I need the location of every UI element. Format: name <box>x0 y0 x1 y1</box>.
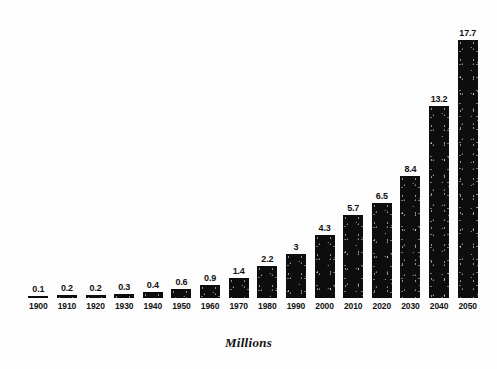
bar <box>229 278 249 298</box>
bar-value-label: 6.5 <box>376 191 388 201</box>
x-axis: 1900191019201930194019501960197019801990… <box>0 300 497 316</box>
bar-value-label: 2.2 <box>261 254 273 264</box>
bar <box>458 40 478 298</box>
x-axis-tick-label: 2040 <box>425 300 454 312</box>
x-axis-tick-label: 1940 <box>139 300 168 312</box>
bar-group: 0.3 <box>114 0 134 298</box>
bar <box>57 295 77 298</box>
x-axis-tick-label: 1980 <box>253 300 282 312</box>
x-axis-tick-label: 1910 <box>53 300 82 312</box>
x-axis-tick-label: 1920 <box>81 300 110 312</box>
bar-group: 8.4 <box>400 0 420 298</box>
bar-value-label: 8.4 <box>404 164 416 174</box>
x-axis-tick-label: 1960 <box>196 300 225 312</box>
bar-group: 3 <box>286 0 306 298</box>
x-axis-tick-label: 1950 <box>167 300 196 312</box>
x-axis-tick-label: 2050 <box>453 300 482 312</box>
bar <box>114 294 134 298</box>
chart-caption: Millions <box>0 335 497 351</box>
bar-group: 0.1 <box>28 0 48 298</box>
bar-group: 13.2 <box>429 0 449 298</box>
bar <box>429 106 449 298</box>
x-axis-tick-label: 1930 <box>110 300 139 312</box>
bar-value-label: 17.7 <box>459 28 476 38</box>
x-axis-tick-label: 1970 <box>224 300 253 312</box>
bar-group: 4.3 <box>315 0 335 298</box>
bar <box>200 285 220 298</box>
bar-value-label: 5.7 <box>347 203 359 213</box>
bar-value-label: 0.2 <box>61 283 73 293</box>
bar-value-label: 0.2 <box>90 283 102 293</box>
bar <box>343 215 363 298</box>
bar <box>400 176 420 298</box>
x-axis-tick-label: 2020 <box>368 300 397 312</box>
bar-value-label: 0.6 <box>175 277 187 287</box>
bar <box>315 235 335 298</box>
x-axis-tick-label: 1900 <box>24 300 53 312</box>
bar <box>28 296 48 298</box>
bar-value-label: 13.2 <box>431 94 448 104</box>
bar-value-label: 4.3 <box>319 223 331 233</box>
x-axis-tick-label: 1990 <box>282 300 311 312</box>
bar-value-label: 0.1 <box>32 284 44 294</box>
bar-group: 0.4 <box>143 0 163 298</box>
bar-value-label: 0.9 <box>204 273 216 283</box>
bar-group: 6.5 <box>372 0 392 298</box>
bar <box>86 295 106 298</box>
bar <box>171 289 191 298</box>
bar-chart: 0.10.20.20.30.40.60.91.42.234.35.76.58.4… <box>0 0 497 369</box>
bar-value-label: 0.3 <box>118 282 130 292</box>
bar-group: 1.4 <box>229 0 249 298</box>
bar-value-label: 1.4 <box>233 266 245 276</box>
plot-area: 0.10.20.20.30.40.60.91.42.234.35.76.58.4… <box>0 0 497 298</box>
x-axis-tick-label: 2000 <box>310 300 339 312</box>
bar-group: 0.2 <box>86 0 106 298</box>
bar <box>143 292 163 298</box>
x-axis-tick-label: 2030 <box>396 300 425 312</box>
bar-group: 5.7 <box>343 0 363 298</box>
bar-group: 0.2 <box>57 0 77 298</box>
bar-group: 2.2 <box>257 0 277 298</box>
bar <box>286 254 306 298</box>
bar-value-label: 0.4 <box>147 280 159 290</box>
bar-value-label: 3 <box>294 242 299 252</box>
bar-group: 0.9 <box>200 0 220 298</box>
x-axis-tick-label: 2010 <box>339 300 368 312</box>
bar-group: 17.7 <box>458 0 478 298</box>
bar <box>257 266 277 298</box>
bar-group: 0.6 <box>171 0 191 298</box>
bar <box>372 203 392 298</box>
